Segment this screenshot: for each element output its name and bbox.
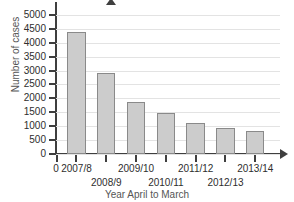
x-axis-tick (56, 155, 58, 162)
x-axis-tick (105, 155, 107, 162)
y-axis-tick-label: 4000 (0, 38, 46, 48)
gridline (55, 154, 280, 155)
bar (157, 113, 175, 154)
x-axis-title: Year April to March (0, 189, 294, 200)
gridline (55, 15, 280, 16)
y-axis-tick-label: 500 (0, 135, 46, 145)
y-axis-tick-label: 4500 (0, 24, 46, 34)
y-axis-tick (49, 139, 56, 141)
bar-chart: Number of cases 050010001500200025003000… (0, 0, 294, 202)
y-axis-tick (49, 125, 56, 127)
y-axis-tick-label: 1500 (0, 107, 46, 117)
y-axis-tick (49, 153, 56, 155)
x-axis-tick-label: 2009/10 (113, 164, 159, 174)
y-axis-tick (49, 70, 56, 72)
y-axis-tick (49, 28, 56, 30)
x-axis-tick-label: 2013/14 (232, 164, 278, 174)
x-axis-arrow-icon (280, 149, 288, 159)
y-axis-tick-label: 2000 (0, 93, 46, 103)
y-axis-tick-label: 0 (0, 149, 46, 159)
x-axis-tick (75, 155, 77, 162)
y-axis-tick (49, 42, 56, 44)
gridline (55, 71, 280, 72)
y-axis-tick (49, 56, 56, 58)
y-axis-tick (49, 14, 56, 16)
gridline (55, 43, 280, 44)
gridline (55, 84, 280, 85)
y-axis-tick (49, 111, 56, 113)
y-axis-tick (49, 83, 56, 85)
x-axis-tick-label: 2011/12 (173, 164, 219, 174)
x-axis-tick-label: 2007/8 (53, 164, 99, 174)
y-axis-tick-label: 5000 (0, 10, 46, 20)
bar (246, 131, 264, 154)
y-axis-tick-label: 3000 (0, 66, 46, 76)
x-axis-tick (224, 155, 226, 162)
y-axis-tick-label: 3500 (0, 52, 46, 62)
gridline (55, 29, 280, 30)
y-axis-arrow-icon (106, 0, 116, 5)
x-axis-tick (135, 155, 137, 162)
bar (67, 32, 85, 154)
y-axis-tick-label: 2500 (0, 79, 46, 89)
bar (127, 102, 145, 154)
bar (216, 128, 234, 154)
x-axis-tick-label: 2008/9 (83, 178, 129, 188)
gridline (55, 57, 280, 58)
x-axis-tick-label: 2012/13 (202, 178, 248, 188)
y-axis-tick (49, 97, 56, 99)
bar (186, 123, 204, 154)
x-axis-tick-label: 2010/11 (143, 178, 189, 188)
x-axis-tick (254, 155, 256, 162)
plot-area (55, 8, 280, 154)
y-axis-tick-label: 1000 (0, 121, 46, 131)
gridline (55, 98, 280, 99)
x-axis-tick (165, 155, 167, 162)
bar (97, 73, 115, 154)
x-axis-tick (195, 155, 197, 162)
